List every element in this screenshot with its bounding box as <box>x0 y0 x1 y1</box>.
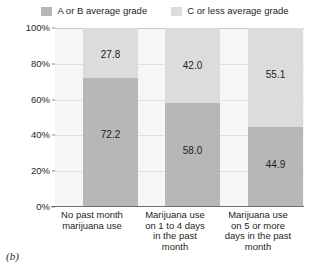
x-axis-labels: No past month marijuana use Marijuana us… <box>55 210 304 260</box>
bar-group: 27.8 72.2 42.0 58.0 55.1 44.9 <box>55 28 304 207</box>
x-axis-label-no-past-month-marijuana-use: No past month marijuana use <box>46 210 138 231</box>
x-axis-label-line: Marijuana use <box>212 210 304 221</box>
bar-value-label: 27.8 <box>83 49 138 60</box>
x-axis-label-line: month <box>212 242 304 253</box>
stacked-bar-marijuana-use-1-to-4-days[interactable]: 42.0 58.0 <box>165 28 220 207</box>
figure-caption: (b) <box>6 250 19 262</box>
ytick-label-60: 60% <box>31 95 50 105</box>
x-axis-label-line: in the past <box>129 231 221 242</box>
ytick-label-20: 20% <box>31 166 50 176</box>
bar-value-label: 58.0 <box>165 145 220 156</box>
legend-label: C or less average grade <box>187 6 288 16</box>
x-axis-label-line: days in the past <box>212 231 304 242</box>
stacked-bar-no-past-month-marijuana-use[interactable]: 27.8 72.2 <box>83 28 138 207</box>
x-axis-label-marijuana-use-1-to-4-days: Marijuana use on 1 to 4 days in the past… <box>129 210 221 252</box>
bar-segment-a-or-b[interactable]: 72.2 <box>83 78 138 207</box>
ytick-label-80: 80% <box>31 59 50 69</box>
x-axis-label-line: month <box>129 242 221 253</box>
bar-value-label: 42.0 <box>165 60 220 71</box>
ytick-label-40: 40% <box>31 130 50 140</box>
plot-area-wrapper: 100% 80% 60% 40% 20% 0% 27.8 72.2 42.0 5… <box>55 28 304 207</box>
legend-item-a-or-b-average-grade[interactable]: A or B average grade <box>41 6 147 16</box>
bar-value-label: 72.2 <box>83 129 138 140</box>
bar-segment-a-or-b[interactable]: 44.9 <box>248 127 303 207</box>
stacked-bar-marijuana-use-5-or-more-days[interactable]: 55.1 44.9 <box>248 28 303 207</box>
x-axis-label-marijuana-use-5-or-more-days: Marijuana use on 5 or more days in the p… <box>212 210 304 252</box>
chart-legend: A or B average grade C or less average g… <box>0 2 330 20</box>
x-axis-line <box>51 206 304 207</box>
x-axis-label-line: No past month <box>46 210 138 221</box>
bar-value-label: 44.9 <box>248 159 303 170</box>
bar-segment-c-or-less[interactable]: 55.1 <box>248 28 303 127</box>
ytick-label-100: 100% <box>26 23 50 33</box>
bar-segment-c-or-less[interactable]: 42.0 <box>165 28 220 103</box>
legend-swatch-icon-light <box>171 7 182 16</box>
bar-value-label: 55.1 <box>248 69 303 80</box>
bar-segment-a-or-b[interactable]: 58.0 <box>165 103 220 207</box>
figure-panel-b: A or B average grade C or less average g… <box>0 0 330 273</box>
bar-segment-c-or-less[interactable]: 27.8 <box>83 28 138 78</box>
legend-item-c-or-less-average-grade[interactable]: C or less average grade <box>171 6 288 16</box>
x-axis-label-line: marijuana use <box>46 221 138 232</box>
x-axis-label-line: Marijuana use <box>129 210 221 221</box>
legend-swatch-icon-dark <box>41 7 52 16</box>
legend-label: A or B average grade <box>57 6 147 16</box>
